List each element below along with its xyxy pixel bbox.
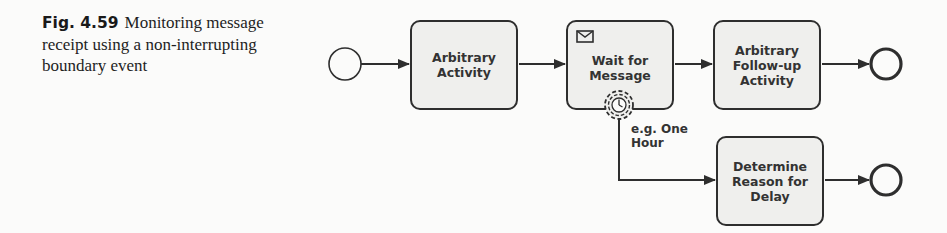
envelope-icon bbox=[576, 30, 594, 43]
end-event-delay bbox=[871, 165, 901, 195]
task-label: Arbitrary Follow-up Activity bbox=[727, 43, 807, 88]
timer-event-label: e.g. One Hour bbox=[631, 122, 688, 150]
task-label: Arbitrary Activity bbox=[426, 50, 502, 80]
task-label: Wait for Message bbox=[583, 53, 657, 83]
timer-boundary-event-icon bbox=[603, 89, 635, 121]
end-event bbox=[871, 49, 901, 79]
task-determine-reason-for-delay: Determine Reason for Delay bbox=[716, 136, 824, 226]
start-event bbox=[329, 48, 361, 80]
task-arbitrary-activity: Arbitrary Activity bbox=[410, 20, 518, 110]
task-arbitrary-follow-up-activity: Arbitrary Follow-up Activity bbox=[713, 20, 821, 110]
task-label: Determine Reason for Delay bbox=[726, 159, 814, 204]
